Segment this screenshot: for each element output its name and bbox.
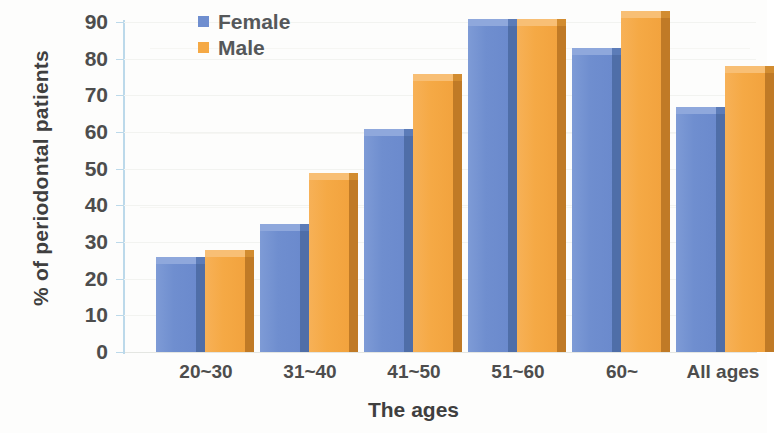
y-tick-label: 50	[48, 158, 108, 179]
x-tick-label-41-50: 41~50	[364, 361, 464, 383]
y-tick-label: 70	[48, 84, 108, 105]
bar-top-face	[572, 48, 612, 55]
x-tick-label-51-60: 51~60	[468, 361, 568, 383]
x-tick-label-31-40: 31~40	[260, 361, 360, 383]
bar-female-31-40	[260, 231, 300, 352]
bar-side-face	[765, 73, 774, 352]
y-tick-label: 80	[48, 48, 108, 69]
bar-front-face	[517, 26, 557, 352]
bar-side-face	[245, 257, 254, 352]
bar-female-51-60	[468, 26, 508, 352]
bar-top-face	[156, 257, 196, 264]
bar-front-face	[364, 136, 404, 352]
bar-male-51-60	[517, 26, 557, 352]
legend-label-female: Female	[218, 11, 290, 32]
bar-male-31-40	[309, 180, 349, 352]
bar-front-face	[413, 81, 453, 352]
bar-top-face	[260, 224, 300, 231]
y-tick-label: 30	[48, 231, 108, 252]
bar-female-60-plus	[572, 55, 612, 352]
bar-side-face	[661, 18, 670, 352]
bar-female-all-ages	[676, 114, 716, 352]
bar-top-face	[676, 107, 716, 114]
legend-swatch-female-icon	[198, 16, 209, 27]
bar-female-20-30	[156, 264, 196, 352]
bar-top-face	[309, 173, 349, 180]
y-axis-tick-labels: 90 80 70 60 50 40 30 20 10 0	[40, 0, 108, 433]
bar-male-20-30	[205, 257, 245, 352]
bar-front-face	[260, 231, 300, 352]
x-axis-line	[123, 352, 757, 353]
legend-label-male: Male	[218, 37, 265, 58]
bar-male-all-ages	[725, 73, 765, 352]
bar-male-60-plus	[621, 18, 661, 352]
bar-top-face	[413, 74, 453, 81]
bar-front-face	[309, 180, 349, 352]
bar-front-face	[156, 264, 196, 352]
bar-side-face	[716, 114, 725, 352]
bar-front-face	[572, 55, 612, 352]
bar-front-face	[621, 18, 661, 352]
y-axis-tick	[116, 352, 125, 353]
bar-top-face	[517, 19, 557, 26]
bar-top-face	[364, 129, 404, 136]
bar-male-41-50	[413, 81, 453, 352]
x-tick-label-20-30: 20~30	[156, 361, 256, 383]
y-tick-label: 90	[48, 11, 108, 32]
x-axis-title: The ages	[0, 398, 767, 422]
y-tick-label: 10	[48, 304, 108, 325]
bar-top-face	[468, 19, 508, 26]
bar-front-face	[725, 73, 765, 352]
bar-side-face	[196, 264, 205, 352]
bar-side-face	[404, 136, 413, 352]
bar-top-face	[725, 66, 765, 73]
legend-item-female: Female	[198, 8, 290, 34]
chart-legend: Female Male	[198, 8, 290, 60]
x-tick-label-60-plus: 60~	[572, 361, 672, 383]
y-tick-label: 20	[48, 268, 108, 289]
y-tick-label: 40	[48, 194, 108, 215]
bar-side-face	[557, 26, 566, 352]
bar-side-face	[612, 55, 621, 352]
bar-front-face	[205, 257, 245, 352]
legend-item-male: Male	[198, 34, 290, 60]
bar-side-face	[349, 180, 358, 352]
y-tick-label: 0	[48, 341, 108, 362]
bar-female-41-50	[364, 136, 404, 352]
bar-side-face	[508, 26, 517, 352]
x-tick-label-all-ages: All ages	[668, 361, 778, 383]
bar-top-face	[621, 11, 661, 18]
bar-top-face	[205, 250, 245, 257]
bar-side-face	[300, 231, 309, 352]
legend-swatch-male-icon	[198, 42, 209, 53]
bar-front-face	[676, 114, 716, 352]
y-tick-label: 60	[48, 121, 108, 142]
bar-side-face	[453, 81, 462, 352]
plot-area	[124, 22, 756, 352]
bar-front-face	[468, 26, 508, 352]
